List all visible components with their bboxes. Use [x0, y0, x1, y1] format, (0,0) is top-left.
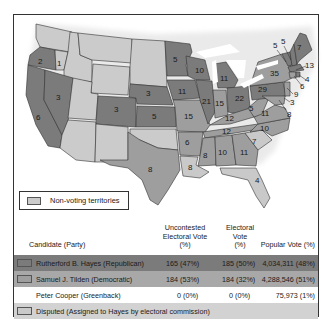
uncontested-value: 0 (0%) [177, 291, 198, 300]
label-or: 2 [38, 57, 43, 66]
candidate-name: Rutherford B. Hayes (Republican) [36, 259, 144, 268]
popular-value: 4,288,546 (51%) [262, 275, 315, 284]
label-ky: 12 [225, 114, 234, 123]
label-wv: 5 [249, 104, 254, 113]
state-dakota [130, 39, 167, 87]
electoral-value: 185 (50%) [222, 259, 255, 268]
electoral-value: 184 (32%) [222, 275, 255, 284]
label-md: 8 [287, 110, 292, 119]
candidate-name: Samuel J. Tilden (Democratic) [36, 275, 132, 284]
popular-value: 75,973 (1%) [276, 291, 315, 300]
header-electoral: Electoral Vote (%) [220, 224, 260, 250]
table-row-tilden: Samuel J. Tilden (Democratic) 184 (53%) … [14, 271, 318, 287]
table-header: Candidate (Party) Uncontested Electoral … [14, 215, 318, 255]
label-wi: 10 [195, 66, 204, 75]
label-al: 10 [218, 148, 227, 157]
label-va: 11 [261, 109, 270, 118]
header-popular: Popular Vote (%) [261, 241, 315, 250]
label-co: 3 [114, 105, 119, 114]
label-ar: 6 [185, 138, 190, 147]
disputed-swatch [17, 307, 32, 315]
democratic-swatch [17, 275, 32, 283]
disputed-label: Disputed (Assigned to Hayes by electoral… [36, 307, 210, 316]
state-nm [95, 124, 128, 162]
state-az [60, 120, 96, 162]
electoral-value: 0 (0%) [229, 291, 250, 300]
label-ne: 3 [146, 89, 151, 98]
table-row-cooper: Peter Cooper (Greenback) 0 (0%) 0 (0%) 7… [14, 287, 318, 303]
label-pa: 29 [258, 85, 267, 94]
label-fl: 4 [255, 176, 260, 185]
state-wy [91, 64, 130, 95]
republican-swatch [17, 259, 32, 267]
label-mi: 11 [220, 74, 229, 83]
label-oh: 22 [235, 94, 244, 103]
label-ms: 8 [203, 151, 208, 160]
label-vt: 5 [273, 41, 278, 50]
label-ks: 5 [152, 112, 157, 121]
candidate-name: Peter Cooper (Greenback) [36, 291, 121, 300]
label-or-disputed: 1 [57, 59, 62, 68]
label-ny: 35 [270, 69, 279, 78]
uncontested-value: 184 (53%) [166, 275, 199, 284]
popular-value: 4,034,311 (48%) [262, 259, 315, 268]
label-in: 15 [215, 99, 224, 108]
label-tx: 8 [148, 165, 153, 174]
label-de: 3 [290, 98, 295, 107]
label-ca: 6 [36, 113, 41, 122]
label-ia: 11 [178, 87, 187, 96]
state-ar [178, 132, 203, 156]
label-tn: 12 [222, 127, 231, 136]
results-table: Candidate (Party) Uncontested Electoral … [14, 215, 318, 319]
uncontested-value: 165 (47%) [166, 259, 199, 268]
state-nj [284, 82, 290, 96]
label-la: 8 [188, 163, 193, 172]
header-candidate: Candidate (Party) [29, 241, 85, 250]
label-ma: 13 [305, 61, 314, 70]
label-ct: 6 [300, 82, 305, 91]
label-il: 21 [202, 97, 211, 106]
table-row-hayes: Rutherford B. Hayes (Republican) 165 (47… [14, 255, 318, 271]
header-uncontested: Uncontested Electoral Vote (%) [154, 224, 216, 250]
state-ri [296, 72, 300, 77]
table-row-disputed: Disputed (Assigned to Hayes by electoral… [14, 303, 318, 319]
label-nv: 3 [56, 93, 61, 102]
territories-legend: Non-voting territories [19, 191, 129, 210]
label-ri: 4 [305, 75, 310, 84]
label-sc: 7 [252, 137, 257, 146]
label-nh: 5 [281, 37, 286, 46]
territory-swatch [27, 197, 41, 205]
label-ga: 11 [240, 148, 249, 157]
state-fl [220, 168, 270, 208]
label-nc: 10 [260, 124, 269, 133]
label-nj: 9 [294, 90, 299, 99]
label-mo: 15 [184, 112, 193, 121]
territories-label: Non-voting territories [50, 196, 120, 205]
label-mn: 5 [173, 55, 178, 64]
label-me: 7 [297, 43, 302, 52]
